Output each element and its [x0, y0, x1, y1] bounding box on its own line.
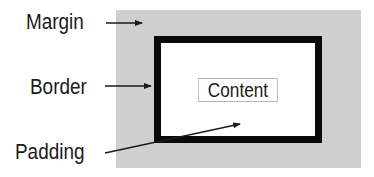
arrows [0, 0, 374, 177]
padding-arrow [105, 124, 240, 153]
box-model-diagram: Content Margin Border Padding [0, 0, 374, 177]
